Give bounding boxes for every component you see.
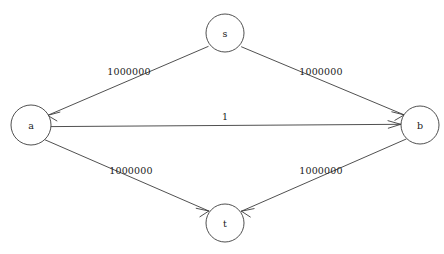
edge-label-s-a: 1000000 xyxy=(107,66,151,77)
edge-a-to-b[interactable] xyxy=(51,121,401,129)
edge-b-to-t-arrowhead xyxy=(241,209,254,217)
edge-label-b-t: 1000000 xyxy=(299,165,343,176)
edge-a-to-t-arrowhead xyxy=(196,208,209,217)
edge-label-s-b: 1000000 xyxy=(299,66,343,77)
edge-s-to-b[interactable] xyxy=(241,47,404,121)
node-s-label: s xyxy=(223,28,228,39)
edge-label-a-t: 1000000 xyxy=(109,165,153,176)
node-t-label: t xyxy=(223,218,227,229)
edge-label-a-b: 1 xyxy=(222,111,228,122)
edges-layer xyxy=(45,46,407,217)
node-a-label: a xyxy=(28,120,34,131)
edge-a-to-b-line xyxy=(51,124,401,126)
edge-s-to-a[interactable] xyxy=(48,46,209,121)
graph-diagram-canvas: 1000000 1000000 1 1000000 1000000 s a b xyxy=(0,0,444,254)
node-a[interactable]: a xyxy=(11,105,51,145)
graph-svg: 1000000 1000000 1 1000000 1000000 s a b xyxy=(0,0,444,254)
edge-labels-layer: 1000000 1000000 1 1000000 1000000 xyxy=(107,66,343,176)
node-b[interactable]: b xyxy=(401,106,439,144)
edge-s-to-a-line xyxy=(48,46,209,115)
edge-a-to-t[interactable] xyxy=(45,140,209,217)
nodes-layer: s a b t xyxy=(11,14,439,242)
edge-s-to-b-line xyxy=(241,47,404,115)
node-b-label: b xyxy=(417,120,423,131)
node-s[interactable]: s xyxy=(206,14,244,52)
edge-b-to-t[interactable] xyxy=(241,139,406,217)
node-t[interactable]: t xyxy=(206,204,244,242)
